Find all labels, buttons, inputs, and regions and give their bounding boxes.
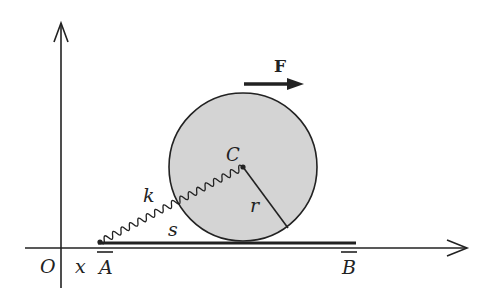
diagram-canvas xyxy=(0,0,490,301)
position-label: x xyxy=(75,257,86,276)
center-point xyxy=(240,164,245,169)
origin-label: O xyxy=(40,257,56,276)
force-label: F xyxy=(274,58,286,75)
anchor-point xyxy=(97,239,102,244)
arc-length-label: s xyxy=(168,220,178,239)
center-label: C xyxy=(226,146,240,164)
point-a-label: A xyxy=(99,258,113,277)
radius-label: r xyxy=(250,196,259,215)
spring-constant-label: k xyxy=(143,186,155,205)
force-arrow-icon xyxy=(287,78,304,90)
physics-diagram: F C k r s O x A B xyxy=(0,0,490,301)
point-b-label: B xyxy=(342,258,356,277)
